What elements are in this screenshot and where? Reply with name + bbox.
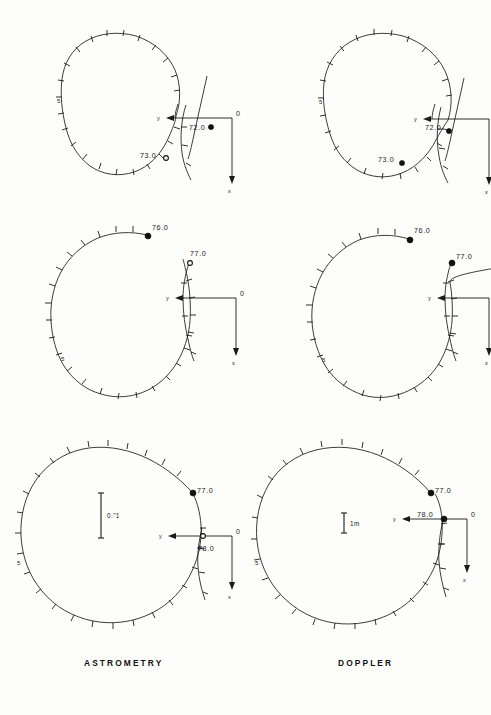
epoch-marker-77	[188, 261, 193, 266]
axis-label-x: x	[485, 189, 488, 195]
orbit-tick-marks	[306, 228, 458, 401]
tick-label-5: 5	[61, 356, 65, 362]
axis-label-origin: 0	[471, 511, 475, 518]
epoch-marker-77	[428, 490, 434, 496]
orbit-tick-marks	[15, 440, 206, 629]
axis-label-y: y	[428, 295, 431, 301]
epoch-label-72: 72.0	[189, 123, 205, 132]
axis-indicator: y x 0	[428, 290, 491, 366]
axis-label-x: x	[463, 577, 466, 583]
panel-astrometry-middle: 5 y x 0 76.0 77.0	[0, 215, 246, 420]
panel-astrometry-top: 5 y x 0	[0, 0, 246, 215]
axis-label-x: x	[232, 360, 235, 366]
orbit-tick-marks	[45, 226, 196, 399]
epoch-label-72: 72.0	[425, 123, 441, 132]
epoch-marker-77	[449, 260, 455, 266]
panel-astrometry-bottom: 5 0."1 y x 0	[0, 420, 246, 650]
tick-label-5: 5	[17, 560, 21, 566]
axis-label-origin: 0	[236, 528, 240, 535]
tick-label-5: 5	[322, 357, 326, 363]
axis-label-origin: 0	[240, 290, 244, 297]
caption-astrometry: ASTROMETRY	[84, 658, 163, 668]
axis-label-x: x	[228, 594, 231, 600]
scale-bar-label: 0."1	[107, 512, 120, 519]
axis-indicator: y x 0	[393, 511, 475, 583]
tick-label-5: 5	[57, 98, 61, 104]
axis-label-y: y	[157, 115, 160, 121]
epoch-marker-78	[201, 534, 206, 539]
axis-indicator: y x 0	[166, 290, 244, 366]
axis-label-y: y	[393, 516, 396, 522]
epoch-label-77: 77.0	[190, 249, 206, 258]
epoch-label-77: 77.0	[456, 252, 472, 261]
secondary-arc	[437, 107, 448, 183]
epoch-label-77: 77.0	[435, 486, 451, 495]
panel-doppler-bottom: 5 1m y x 0	[245, 420, 491, 650]
secondary-arc-ticks	[438, 129, 448, 169]
panel-doppler-top: 5 y x 0 72.0 73.0	[245, 0, 491, 215]
scale-bar: 1m	[341, 513, 360, 533]
epoch-marker-76	[145, 233, 151, 239]
axis-label-y: y	[166, 295, 169, 301]
epoch-marker-72	[446, 128, 451, 133]
axis-label-y: y	[159, 533, 162, 539]
secondary-arc-ticks	[181, 127, 191, 166]
orbit-curve	[257, 447, 443, 624]
epoch-marker-78	[441, 516, 447, 522]
epoch-label-78: 78.0	[417, 510, 433, 519]
upper-arc	[432, 104, 435, 119]
epoch-label-77: 77.0	[197, 486, 213, 495]
epoch-label-73: 73.0	[378, 155, 394, 164]
scale-bar-label: 1m	[350, 520, 360, 527]
orbit-curve	[51, 233, 191, 397]
axis-label-x: x	[228, 188, 231, 194]
orbit-tick-marks	[56, 30, 180, 175]
orbit-tick-marks	[251, 439, 447, 629]
tick-label-5: 5	[255, 560, 259, 566]
orbit-curve	[61, 33, 179, 174]
axis-label-y: y	[414, 116, 417, 122]
epoch-marker-77	[190, 490, 196, 496]
tick-label-5: 5	[319, 99, 323, 105]
caption-doppler: DOPPLER	[338, 658, 393, 668]
secondary-arc	[181, 105, 191, 180]
scale-bar: 0."1	[98, 493, 120, 538]
epoch-label-76: 76.0	[152, 223, 168, 232]
epoch-marker-73	[399, 160, 404, 165]
panel-doppler-middle: 5 y x 0 76.0 77.0	[245, 215, 491, 420]
axis-label-x: x	[485, 360, 488, 366]
axis-label-origin: 0	[236, 110, 240, 117]
epoch-label-73: 73.0	[140, 151, 156, 160]
epoch-label-76: 76.0	[414, 226, 430, 235]
epoch-marker-76	[407, 237, 413, 243]
epoch-label-78: 78.0	[198, 544, 214, 553]
right-arc	[188, 76, 207, 159]
epoch-marker-73	[164, 156, 169, 161]
epoch-marker-72	[208, 124, 213, 129]
figure-root: 5 y x 0	[0, 0, 491, 715]
